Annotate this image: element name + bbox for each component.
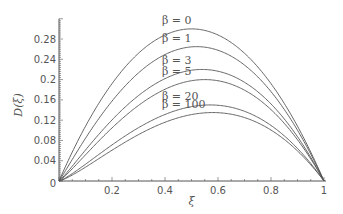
curve-label-beta-0: β = 0: [162, 14, 192, 27]
curve-label-beta-100: β = 100: [162, 98, 206, 111]
origin-label: 0: [50, 178, 56, 189]
y-tick-label: 0.08: [34, 135, 56, 146]
curve-label-beta-1: β = 1: [162, 32, 192, 45]
y-tick-label: 0.16: [34, 94, 56, 105]
curve-labels: β = 0β = 1β = 3β = 5β = 20β = 100: [162, 14, 206, 111]
x-tick-label: 0.8: [263, 185, 279, 196]
chart: 0.040.080.120.160.20.240.280.20.40.60.81…: [0, 0, 343, 214]
x-tick-label: 0.4: [157, 185, 173, 196]
y-tick-label: 0.12: [34, 115, 56, 126]
curve-label-beta-5: β = 5: [162, 65, 192, 78]
x-axis-title: ξ: [188, 195, 195, 208]
y-tick-label: 0.04: [34, 155, 56, 166]
curve-beta-3: [59, 69, 324, 181]
y-tick-label: 0.24: [34, 54, 56, 65]
x-tick-label: 1: [321, 185, 327, 196]
y-tick-label: 0.2: [40, 74, 56, 85]
x-tick-label: 0.2: [104, 185, 120, 196]
curve-beta-20: [59, 105, 324, 181]
y-axis-title: D(ξ): [12, 93, 25, 117]
y-tick-label: 0.28: [34, 34, 56, 45]
x-tick-label: 0.6: [210, 185, 226, 196]
